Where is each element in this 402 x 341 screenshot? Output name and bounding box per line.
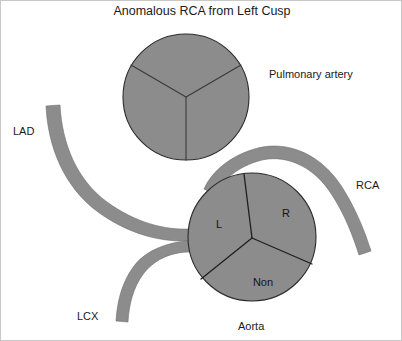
cusp-label-left: L bbox=[216, 218, 222, 230]
figure-panel: Anomalous RCA from Left Cusp L R Non Pul… bbox=[0, 0, 402, 341]
vessel-lcx bbox=[116, 241, 190, 322]
page-title: Anomalous RCA from Left Cusp bbox=[113, 4, 290, 18]
anatomy-diagram: Anomalous RCA from Left Cusp L R Non Pul… bbox=[1, 1, 402, 341]
cusp-label-non: Non bbox=[253, 276, 273, 288]
label-pulmonary-artery: Pulmonary artery bbox=[269, 68, 353, 80]
label-lad: LAD bbox=[13, 125, 34, 137]
cusp-label-right: R bbox=[282, 207, 290, 219]
label-lcx: LCX bbox=[77, 310, 99, 322]
label-aorta: Aorta bbox=[238, 320, 265, 332]
label-rca: RCA bbox=[356, 179, 380, 191]
